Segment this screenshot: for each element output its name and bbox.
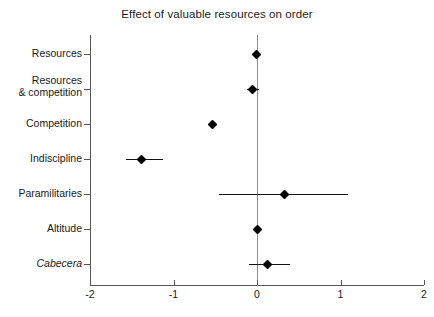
point-estimate-marker (251, 49, 261, 59)
y-axis-label: Paramilitaries (0, 188, 82, 200)
point-estimate-marker (137, 154, 147, 164)
y-axis-tick (84, 159, 90, 160)
x-axis-tick (424, 280, 425, 285)
y-axis-label: Resources (0, 48, 82, 60)
y-axis-label: Altitude (0, 223, 82, 235)
y-axis-tick (84, 89, 90, 90)
x-axis-tick (90, 280, 91, 285)
point-estimate-marker (252, 224, 262, 234)
point-estimate-marker (208, 119, 218, 129)
chart-title: Effect of valuable resources on order (0, 8, 434, 20)
x-axis-tick (257, 280, 258, 285)
y-axis-tick (84, 54, 90, 55)
y-axis-tick (84, 194, 90, 195)
x-axis-tick-label: 2 (409, 288, 434, 300)
x-axis-tick (174, 280, 175, 285)
point-estimate-marker (280, 189, 290, 199)
y-axis-tick (84, 264, 90, 265)
x-axis-tick-label: 1 (326, 288, 356, 300)
y-axis-tick (84, 124, 90, 125)
y-axis-label: Cabecera (0, 258, 82, 270)
y-axis-line (90, 35, 91, 286)
y-axis-label: Competition (0, 118, 82, 130)
x-axis-tick (341, 280, 342, 285)
coefficient-plot-figure: Effect of valuable resources on order Re… (0, 0, 434, 317)
point-estimate-marker (263, 259, 273, 269)
y-axis-label: Resources & competition (0, 75, 82, 98)
zero-reference-line (257, 35, 258, 286)
y-axis-label: Indiscipline (0, 153, 82, 165)
x-axis-tick-label: 0 (242, 288, 272, 300)
x-axis-tick-label: -2 (75, 288, 105, 300)
x-axis-tick-label: -1 (159, 288, 189, 300)
y-axis-tick (84, 229, 90, 230)
